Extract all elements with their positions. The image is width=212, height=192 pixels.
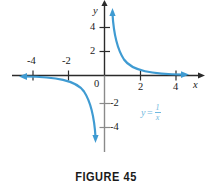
curve-equation-label: y = 1 x [141,104,161,123]
y-tick-label-2: 2 [90,46,95,57]
fraction-denominator: x [155,114,161,122]
x-tick-label--4: -4 [27,56,36,67]
x-tick-label--2: -2 [62,56,71,67]
curve-arrowhead-left [19,73,27,80]
curve-equation-variable: y [141,108,145,118]
curve-arrowhead-down [92,135,98,143]
origin-label: 0 [94,79,99,90]
curve-equation-fraction: 1 x [155,104,161,123]
plot-svg [0,0,212,160]
x-axis-arrowhead [198,72,205,78]
x-tick-label-4: 4 [173,82,178,93]
y-tick-label--4: -4 [110,122,119,133]
curve-branch-positive [113,14,185,75]
y-axis-label: y [93,6,98,17]
fraction-numerator: 1 [155,104,161,112]
y-tick-label-4: 4 [90,22,95,33]
curve-arrowhead-up [109,8,115,16]
figure-caption: FIGURE 45 [13,170,200,184]
x-axis-label: x [193,80,198,91]
x-tick-label-2: 2 [138,82,143,93]
y-axis-arrowhead [101,0,107,6]
curve-arrowhead-right [181,71,189,78]
curve-equation-equals: = [147,108,153,118]
figure-container: -4 -2 2 4 4 2 -2 -4 0 x y y = 1 x FIGURE… [0,0,212,192]
y-tick-label--2: -2 [110,98,119,109]
curve-branch-negative [24,77,96,138]
